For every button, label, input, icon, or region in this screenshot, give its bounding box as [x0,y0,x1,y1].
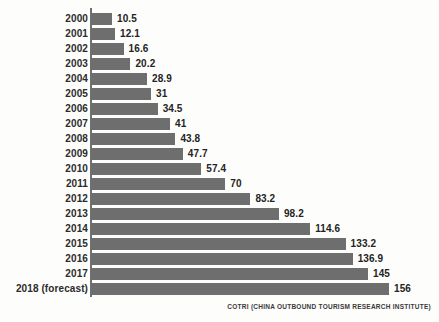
bar-fill [92,208,279,220]
bar-track: 145 [92,268,439,280]
bar-value-label: 156 [394,283,411,295]
bar-row: 201283.2 [0,193,439,208]
bar-row: 2015133.2 [0,238,439,253]
bar-row: 2018 (forecast)156 [0,283,439,298]
bar-row: 201398.2 [0,208,439,223]
bar-value-label: 10.5 [117,13,137,25]
bar-row: 200428.9 [0,73,439,88]
bar-value-label: 16.6 [129,43,149,55]
category-label: 2002 [65,43,88,55]
bar-value-label: 57.4 [206,163,226,175]
category-label: 2013 [65,208,88,220]
bar-value-label: 43.8 [180,133,200,145]
bar-row: 200634.5 [0,103,439,118]
bar-value-label: 83.2 [255,193,275,205]
bar-track: 16.6 [92,43,439,55]
bar-fill [92,13,112,25]
bar-fill [92,43,124,55]
category-label: 2004 [65,73,88,85]
plot-area: 200010.5200112.1200216.6200320.2200428.9… [0,0,439,300]
bar-track: 133.2 [92,238,439,250]
bar-fill [92,193,250,205]
bar-fill [92,118,170,130]
bar-fill [92,88,151,100]
bar-chart-figure: 200010.5200112.1200216.6200320.2200428.9… [0,0,439,322]
bar-value-label: 28.9 [152,73,172,85]
bar-row: 200741 [0,118,439,133]
category-label: 2003 [65,58,88,70]
bar-row: 201170 [0,178,439,193]
bar-row: 200947.7 [0,148,439,163]
bar-fill [92,283,389,295]
bar-value-label: 20.2 [135,58,155,70]
bar-series: 200010.5200112.1200216.6200320.2200428.9… [0,13,439,298]
bar-row: 201057.4 [0,163,439,178]
bar-fill [92,148,183,160]
bar-value-label: 41 [175,118,186,130]
bar-value-label: 31 [156,88,167,100]
category-label: 2009 [65,148,88,160]
bar-track: 41 [92,118,439,130]
source-attribution: COTRI (CHINA OUTBOUND TOURISM RESEARCH I… [227,303,431,310]
bar-fill [92,28,115,40]
bar-value-label: 98.2 [284,208,304,220]
bar-value-label: 145 [373,268,390,280]
bar-value-label: 70 [230,178,241,190]
bar-track: 136.9 [92,253,439,265]
bar-track: 47.7 [92,148,439,160]
bar-track: 98.2 [92,208,439,220]
bar-row: 200010.5 [0,13,439,28]
category-label: 2007 [65,118,88,130]
bar-row: 2017145 [0,268,439,283]
category-label: 2017 [65,268,88,280]
bar-value-label: 114.6 [315,223,340,235]
bar-fill [92,103,158,115]
bar-row: 2016136.9 [0,253,439,268]
bar-fill [92,253,353,265]
category-label: 2008 [65,133,88,145]
bar-fill [92,223,310,235]
bar-track: 28.9 [92,73,439,85]
category-label: 2016 [65,253,88,265]
bar-track: 70 [92,178,439,190]
bar-value-label: 47.7 [188,148,208,160]
bar-fill [92,73,147,85]
category-label: 2005 [65,88,88,100]
bar-fill [92,133,175,145]
bar-track: 20.2 [92,58,439,70]
bar-track: 57.4 [92,163,439,175]
bar-value-label: 12.1 [120,28,140,40]
category-label: 2000 [65,13,88,25]
category-label: 2018 (forecast) [16,283,88,295]
bar-value-label: 136.9 [358,253,384,265]
bar-row: 200320.2 [0,58,439,73]
category-label: 2011 [66,178,88,190]
bar-fill [92,163,201,175]
category-label: 2012 [65,193,88,205]
bar-track: 83.2 [92,193,439,205]
bar-track: 114.6 [92,223,439,235]
bar-track: 43.8 [92,133,439,145]
bar-row: 200843.8 [0,133,439,148]
bar-track: 10.5 [92,13,439,25]
bar-row: 2014114.6 [0,223,439,238]
bar-fill [92,238,346,250]
bar-value-label: 34.5 [163,103,183,115]
bar-row: 200531 [0,88,439,103]
category-label: 2015 [65,238,88,250]
bar-track: 156 [92,283,439,295]
category-label: 2014 [65,223,88,235]
bar-fill [92,178,225,190]
bar-track: 34.5 [92,103,439,115]
bar-track: 12.1 [92,28,439,40]
bar-row: 200112.1 [0,28,439,43]
bar-fill [92,58,130,70]
bar-row: 200216.6 [0,43,439,58]
bar-track: 31 [92,88,439,100]
bar-fill [92,268,368,280]
bar-value-label: 133.2 [351,238,377,250]
category-label: 2001 [65,28,88,40]
category-label: 2010 [65,163,88,175]
category-label: 2006 [65,103,88,115]
